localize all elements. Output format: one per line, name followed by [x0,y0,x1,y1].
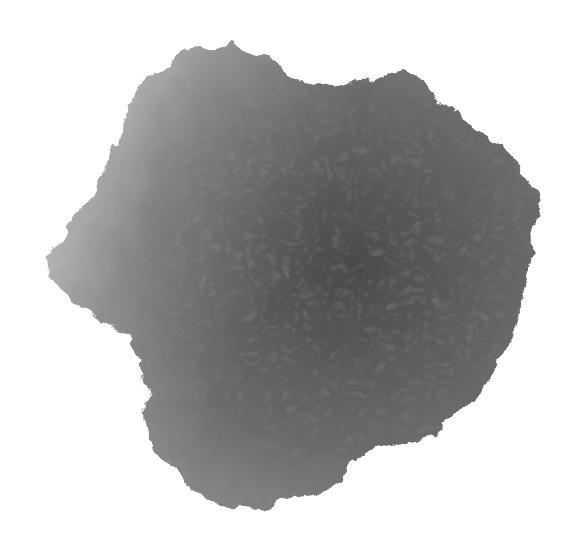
ink-blot-svg [0,0,584,539]
ink-blot-image [0,0,584,539]
